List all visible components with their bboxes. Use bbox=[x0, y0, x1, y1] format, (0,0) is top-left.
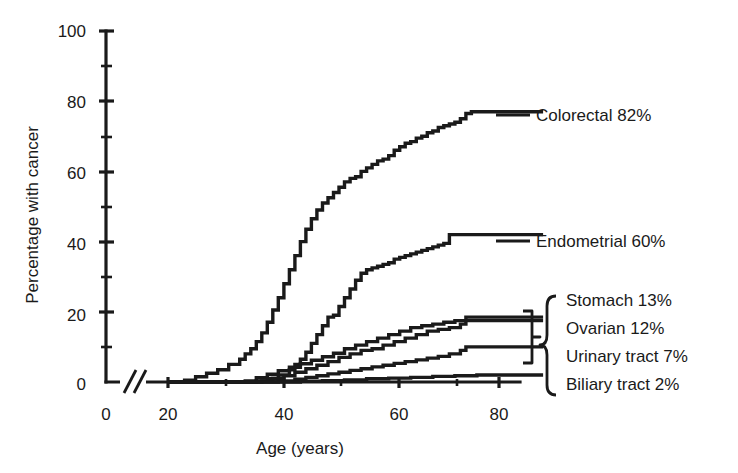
curve-ovarian bbox=[168, 321, 543, 382]
series-curves bbox=[168, 112, 543, 382]
x-axis-break-mark bbox=[120, 370, 146, 393]
outer-bracket bbox=[540, 296, 556, 395]
y-tick-label-20: 20 bbox=[67, 306, 86, 325]
series-label-ovarian: Ovarian 12% bbox=[566, 319, 664, 338]
series-label-urinary-tract: Urinary tract 7% bbox=[566, 347, 688, 366]
series-label-biliary-tract: Biliary tract 2% bbox=[566, 375, 679, 394]
y-tick-label-60: 60 bbox=[67, 164, 86, 183]
x-tick-label-0: 0 bbox=[101, 405, 110, 424]
x-tick-label-60: 60 bbox=[390, 405, 409, 424]
curve-urinary-tract bbox=[168, 347, 543, 382]
leader-lines bbox=[496, 115, 530, 241]
x-tick-labels: 0 20 40 60 80 bbox=[101, 405, 508, 424]
series-label-stomach: Stomach 13% bbox=[566, 291, 672, 310]
x-tick-label-80: 80 bbox=[490, 405, 509, 424]
x-axis-title: Age (years) bbox=[256, 439, 344, 458]
y-tick-label-0: 0 bbox=[77, 375, 86, 394]
y-tick-labels: 100 80 60 40 20 0 bbox=[58, 22, 86, 394]
x-tick-label-40: 40 bbox=[275, 405, 294, 424]
curve-endometrial bbox=[168, 235, 543, 382]
x-tick-label-20: 20 bbox=[159, 405, 178, 424]
series-label-endometrial: Endometrial 60% bbox=[536, 232, 665, 251]
y-axis-title: Percentage with cancer bbox=[23, 126, 42, 304]
cumulative-cancer-incidence-chart: Percentage with cancer 100 80 60 40 20 0 bbox=[0, 0, 738, 473]
y-tick-label-40: 40 bbox=[67, 235, 86, 254]
curve-colorectal bbox=[168, 112, 543, 382]
series-label-colorectal: Colorectal 82% bbox=[536, 106, 651, 125]
y-tick-label-80: 80 bbox=[67, 93, 86, 112]
series-labels: Colorectal 82% Endometrial 60% Stomach 1… bbox=[536, 106, 688, 394]
y-tick-label-100: 100 bbox=[58, 22, 86, 41]
